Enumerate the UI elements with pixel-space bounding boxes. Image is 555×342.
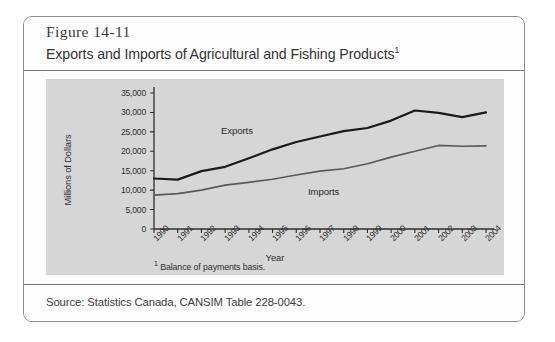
figure-card: Figure 14-11 Exports and Imports of Agri… [23,16,525,322]
y-axis-tick-label: 15,000 [104,166,146,176]
x-axis-title: Year [46,253,504,263]
source-note: Source: Statistics Canada, CANSIM Table … [46,296,305,308]
series-label-imports: Imports [308,186,339,197]
y-axis-tick-label: 35,000 [104,88,146,98]
y-axis-tick-label: 25,000 [104,127,146,137]
y-axis-tick-label: 5,000 [104,205,146,215]
footnote-text: Balance of payments basis. [158,262,265,272]
figure-title-footnote-marker: 1 [394,45,399,55]
y-axis-tick-label: 10,000 [104,185,146,195]
y-axis-tick-label: 20,000 [104,146,146,156]
line-chart: Millions of Dollars Exports Imports Year… [46,79,504,275]
figure-footer: Source: Statistics Canada, CANSIM Table … [24,284,524,321]
figure-number: Figure 14-11 [46,23,131,41]
figure-title: Exports and Imports of Agricultural and … [46,45,399,62]
series-label-exports: Exports [221,125,253,136]
y-axis-tick-label: 30,000 [104,107,146,117]
figure-header: Figure 14-11 Exports and Imports of Agri… [24,17,524,71]
y-axis-tick-label: 0 [104,224,146,234]
figure-footnote: 1 Balance of payments basis. [154,260,265,272]
figure-title-text: Exports and Imports of Agricultural and … [46,46,394,62]
chart-panel: Millions of Dollars Exports Imports Year… [46,79,504,275]
